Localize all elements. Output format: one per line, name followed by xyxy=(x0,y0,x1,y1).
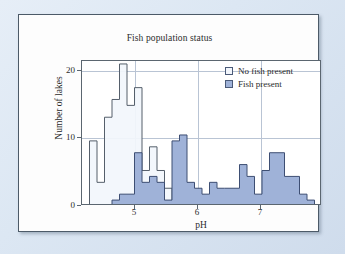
legend-item-no-fish: No fish present xyxy=(225,65,293,77)
x-axis-label: pH xyxy=(81,220,321,230)
x-tickmark-6 xyxy=(197,205,198,209)
y-axis-label: Number of lakes xyxy=(54,48,64,168)
legend-item-fish: Fish present xyxy=(225,78,293,90)
figure-background: Fish population status 0 10 20 Number of… xyxy=(0,0,345,254)
legend-swatch-fish-icon xyxy=(225,80,233,88)
x-tickmark-7 xyxy=(260,205,261,209)
chart-card: Fish population status 0 10 20 Number of… xyxy=(18,14,319,232)
legend: No fish present Fish present xyxy=(225,65,293,91)
y-tick-label-0: 0 xyxy=(49,200,75,210)
x-tickmark-5 xyxy=(134,205,135,209)
y-tickmark-0 xyxy=(77,205,81,206)
legend-label-fish: Fish present xyxy=(238,79,282,89)
legend-label-no-fish: No fish present xyxy=(238,66,293,76)
page-title: Fish population status xyxy=(19,33,320,43)
legend-swatch-no-fish-icon xyxy=(225,67,233,75)
